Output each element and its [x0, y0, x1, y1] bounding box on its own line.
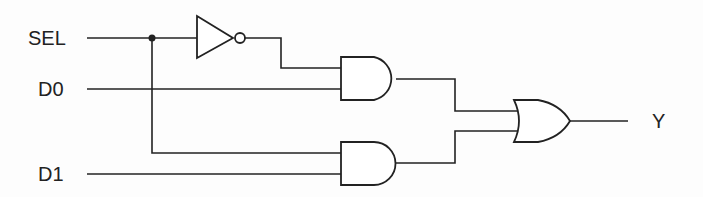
not-bubble: [235, 33, 245, 43]
and-gate-2: [341, 142, 396, 185]
wire-and2-out: [396, 131, 519, 163]
not-gate: [197, 16, 233, 58]
label-d0: D0: [38, 78, 64, 100]
label-sel: SEL: [28, 27, 66, 49]
mux-diagram: SEL D0 D1 Y: [0, 0, 703, 197]
label-y: Y: [652, 110, 665, 132]
circuit-svg: SEL D0 D1 Y: [0, 0, 703, 197]
wire-sel-branch: [152, 38, 341, 153]
wire-not-out: [245, 38, 341, 68]
junction-dot: [149, 35, 156, 42]
or-gate: [514, 100, 570, 142]
label-d1: D1: [38, 163, 64, 185]
and-gate-1: [341, 57, 391, 100]
wire-and1-out: [396, 79, 519, 111]
